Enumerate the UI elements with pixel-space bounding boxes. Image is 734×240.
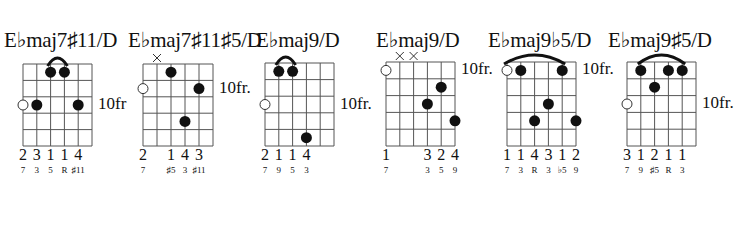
finger-dot-icon (677, 65, 688, 76)
finger-number: 1 (678, 146, 686, 164)
finger-number: 1 (664, 146, 672, 164)
interval-label: 3 (680, 165, 685, 175)
interval-label: R (665, 165, 671, 175)
finger-dot-icon (649, 82, 660, 93)
interval-label: ♯5 (650, 165, 659, 175)
finger-dot-icon (635, 65, 646, 76)
fret-position-label: 10fr. (702, 93, 734, 113)
barre-arc-icon (638, 55, 685, 64)
finger-number: 2 (651, 146, 659, 164)
finger-number: 1 (637, 146, 645, 164)
finger-dot-icon (663, 65, 674, 76)
finger-number: 3 (623, 146, 631, 164)
interval-label: 7 (625, 165, 630, 175)
interval-label: 9 (639, 165, 644, 175)
bass-note-circle-icon (622, 99, 632, 109)
